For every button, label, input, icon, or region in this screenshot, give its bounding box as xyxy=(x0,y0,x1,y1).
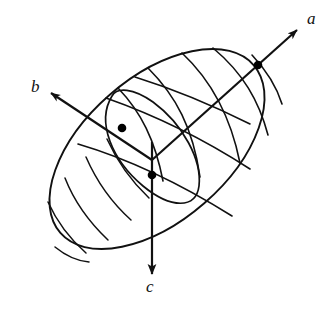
figure-container: a b c xyxy=(0,0,335,316)
ellipsoid-diagram xyxy=(0,0,335,316)
ellipsoid-outline xyxy=(13,11,301,288)
axis-c-dot xyxy=(148,171,157,180)
axis-label-a: a xyxy=(307,10,316,27)
ellipsoid-latitude-curves xyxy=(78,77,250,216)
axis-c xyxy=(148,142,157,274)
axis-b-dot xyxy=(118,124,127,133)
axis-label-b: b xyxy=(31,78,40,95)
axis-label-c: c xyxy=(146,278,154,295)
axis-a-dot xyxy=(254,61,263,70)
